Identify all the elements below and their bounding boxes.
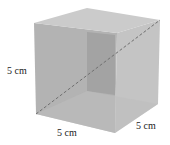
height-label: 5 cm (7, 66, 27, 76)
width-label: 5 cm (57, 128, 77, 138)
depth-label: 5 cm (136, 121, 156, 131)
cube-back-panel (87, 32, 115, 95)
cube-diagram: 5 cm 5 cm 5 cm (0, 0, 170, 145)
